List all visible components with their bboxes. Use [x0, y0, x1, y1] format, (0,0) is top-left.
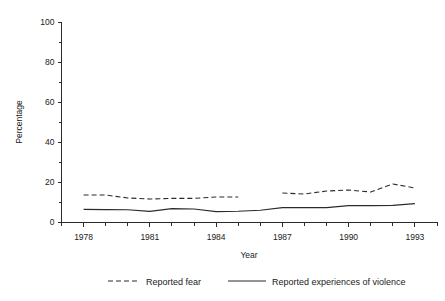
y-axis-title: Percentage	[14, 100, 24, 144]
legend-label-0: Reported fear	[146, 277, 201, 287]
x-tick-label: 1978	[74, 232, 93, 242]
line-chart: 020406080100 197819811984198719901993 Pe…	[0, 0, 445, 301]
series-group	[84, 184, 415, 212]
legend-label-1: Reported experiences of violence	[272, 277, 406, 287]
axes	[62, 22, 438, 223]
x-axis-tick-labels: 197819811984198719901993	[74, 232, 425, 242]
y-tick-label: 20	[45, 177, 55, 187]
y-tick-label: 60	[45, 97, 55, 107]
series-line-0	[84, 184, 415, 199]
x-tick-label: 1987	[273, 232, 292, 242]
y-tick-label: 100	[40, 17, 54, 27]
y-tick-label: 80	[45, 57, 55, 67]
x-tick-label: 1981	[140, 232, 159, 242]
x-tick-label: 1990	[339, 232, 358, 242]
x-tick-label: 1993	[405, 232, 424, 242]
y-tick-label: 0	[50, 217, 55, 227]
x-tick-label: 1984	[207, 232, 226, 242]
y-axis-ticks	[58, 22, 62, 222]
chart-figure: 020406080100 197819811984198719901993 Pe…	[0, 0, 445, 301]
y-axis-tick-labels: 020406080100	[40, 17, 54, 227]
y-tick-label: 40	[45, 137, 55, 147]
x-axis-title: Year	[240, 250, 257, 260]
chart-legend: Reported fearReported experiences of vio…	[108, 277, 406, 287]
series-line-1	[84, 204, 415, 212]
